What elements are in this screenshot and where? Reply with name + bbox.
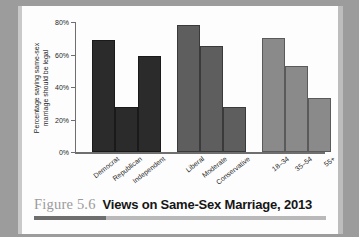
- y-axis-label-line1: Percentage saying same-sex: [33, 43, 40, 133]
- page-right-edge: [338, 6, 343, 234]
- bar-liberal: [177, 25, 200, 152]
- x-axis-line: [75, 152, 325, 154]
- y-axis-label: Percentage saying same-sex marriage shou…: [30, 22, 52, 154]
- y-tick-label-0: 0%: [59, 149, 69, 156]
- x-axis-labels: Democrat Republican Independent Liberal …: [76, 155, 326, 195]
- bar-independent: [138, 56, 161, 152]
- plot-area: 0% 20% 40% 60% 80%: [75, 22, 325, 153]
- caption-rule: [34, 216, 326, 220]
- caption-rule-accent: [34, 216, 106, 220]
- figure-title: Views on Same-Sex Marriage, 2013: [103, 197, 312, 212]
- x-label-55-plus: 55+: [323, 155, 337, 168]
- bar-conservative: [223, 107, 246, 153]
- figure-caption: Figure 5.6 Views on Same-Sex Marriage, 2…: [34, 196, 326, 214]
- figure-number: Figure 5.6: [34, 196, 96, 213]
- bar-55-plus: [308, 98, 331, 152]
- x-label-35-54: 35–54: [294, 155, 314, 173]
- bar-35-54: [285, 66, 308, 152]
- bar-series: [76, 22, 325, 152]
- bar-moderate: [200, 46, 223, 152]
- bar-18-34: [262, 38, 285, 152]
- y-tick-label-80: 80%: [55, 19, 69, 26]
- y-tick-label-60: 60%: [55, 51, 69, 58]
- y-axis-label-line2: marriage should be legal: [42, 50, 49, 127]
- bar-democrat: [92, 40, 115, 152]
- page-background: Percentage saying same-sex marriage shou…: [0, 0, 359, 237]
- y-tick-label-40: 40%: [55, 84, 69, 91]
- y-tick-label-20: 20%: [55, 116, 69, 123]
- x-label-18-34: 18–34: [271, 155, 291, 173]
- bar-republican: [115, 107, 138, 153]
- bar-chart: Percentage saying same-sex marriage shou…: [22, 8, 338, 190]
